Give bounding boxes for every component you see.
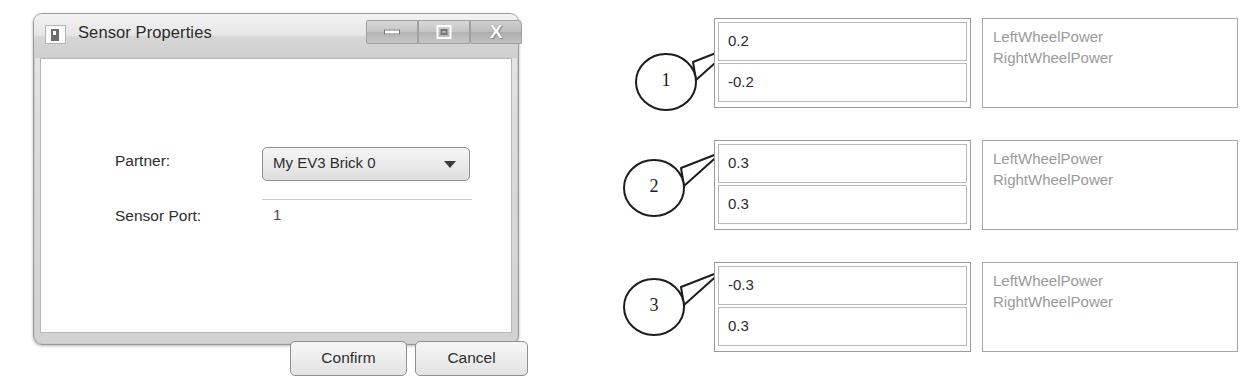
sensor-port-value: 1 (273, 206, 281, 223)
label-text: LeftWheelPower (993, 26, 1237, 47)
cancel-button[interactable]: Cancel (415, 341, 528, 376)
window-app-icon (45, 25, 66, 44)
label-text: LeftWheelPower (993, 148, 1237, 169)
label-panel-row-2: LeftWheelPower RightWheelPower (982, 140, 1238, 230)
maximize-icon (437, 25, 452, 39)
label-text: RightWheelPower (993, 47, 1237, 68)
cancel-button-label: Cancel (416, 349, 527, 367)
value-text: 0.2 (728, 32, 749, 49)
confirm-button[interactable]: Confirm (290, 341, 407, 376)
value-cell[interactable]: -0.3 (718, 266, 967, 305)
value-text: 0.3 (728, 317, 749, 334)
window-title: Sensor Properties (78, 23, 212, 42)
value-cell[interactable]: 0.2 (718, 22, 967, 61)
value-text: 0.3 (728, 154, 749, 171)
value-text: 0.3 (728, 195, 749, 212)
partner-dropdown-value: My EV3 Brick 0 (273, 154, 376, 171)
value-panel-row-2: 0.3 0.3 (714, 140, 971, 230)
label-text: RightWheelPower (993, 291, 1237, 312)
window-titlebar[interactable]: Sensor Properties X (34, 14, 518, 58)
value-cell[interactable]: -0.2 (718, 63, 967, 102)
confirm-button-label: Confirm (291, 349, 406, 367)
minimize-button[interactable] (366, 20, 418, 44)
label-panel-row-1: LeftWheelPower RightWheelPower (982, 18, 1238, 108)
partner-label: Partner: (115, 152, 170, 170)
label-text: RightWheelPower (993, 169, 1237, 190)
label-panel-row-3: LeftWheelPower RightWheelPower (982, 262, 1238, 352)
close-button[interactable]: X (470, 20, 522, 44)
partner-dropdown[interactable]: My EV3 Brick 0 (262, 147, 470, 181)
minimize-icon (384, 30, 400, 35)
chevron-down-icon (444, 161, 456, 168)
value-cell[interactable]: 0.3 (718, 307, 967, 346)
maximize-button[interactable] (418, 20, 470, 44)
value-cell[interactable]: 0.3 (718, 144, 967, 183)
close-icon: X (490, 22, 503, 41)
dialog-content-area: Partner: My EV3 Brick 0 Sensor Port: 1 C… (40, 58, 512, 333)
value-panel-row-1: 0.2 -0.2 (714, 18, 971, 108)
value-panel-row-3: -0.3 0.3 (714, 262, 971, 352)
sensor-port-input[interactable]: 1 (262, 199, 472, 229)
value-cell[interactable]: 0.3 (718, 185, 967, 224)
sensor-port-label: Sensor Port: (115, 207, 201, 225)
value-text: -0.2 (728, 73, 754, 90)
sensor-properties-window: Sensor Properties X Partner: My EV3 Bric… (33, 13, 519, 345)
label-text: LeftWheelPower (993, 270, 1237, 291)
value-text: -0.3 (728, 276, 754, 293)
